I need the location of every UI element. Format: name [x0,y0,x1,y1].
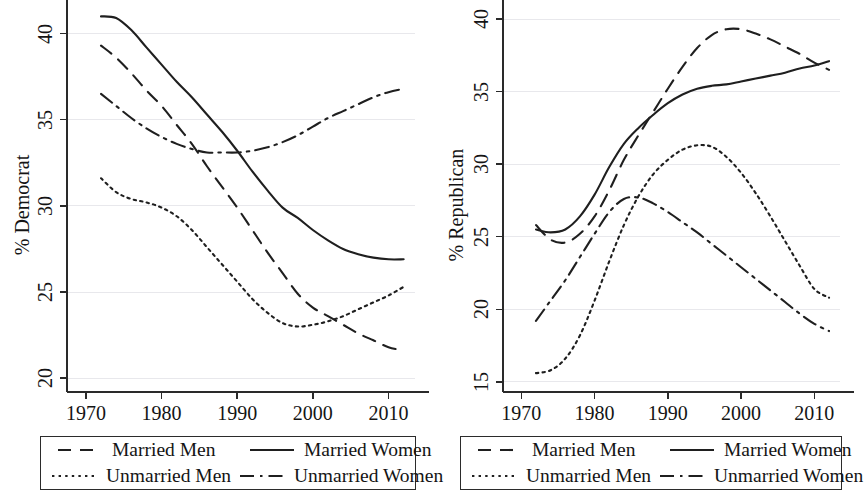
legend-entry-married-men: Married Men [41,439,243,461]
legend-entry-married-men: Married Men [461,439,663,461]
panel-republican: % Republican 152025303540 19701980199020… [432,0,864,492]
legend-sample-dotted-icon [471,470,517,482]
x-tick-label: 1990 [217,402,257,425]
legend-sample-dashdot-icon [659,470,705,482]
legend-label-married-men: Married Men [532,439,635,461]
legend-entry-unmarried-men: Unmarried Men [461,465,657,487]
x-tick-label: 1970 [66,402,106,425]
legend-row-unmarried: Unmarried Men Unmarried Women [461,463,841,489]
legend-sample-dashed-icon [477,444,523,456]
y-tick-label: 40 [470,9,493,29]
legend-label-married-men: Married Men [112,439,215,461]
y-axis-title-republican: % Republican [445,149,468,262]
x-tick-label: 2010 [369,402,409,425]
x-tick-label: 1980 [142,402,182,425]
y-tick-label: 25 [34,282,57,302]
legend-sample-dotted-icon [51,470,97,482]
legend-entry-unmarried-women: Unmarried Women [237,465,435,487]
y-tick-label: 35 [34,110,57,130]
legend-republican: Married Men Married Women Unmarried Men [460,436,842,490]
y-tick-label: 40 [34,24,57,44]
legend-entry-unmarried-men: Unmarried Men [41,465,237,487]
y-tick-label: 30 [34,196,57,216]
x-tick-label: 2010 [794,402,834,425]
legend-sample-dashdot-icon [239,470,285,482]
y-tick-label: 15 [470,372,493,392]
y-tick-label: 20 [34,368,57,388]
y-tick-label: 35 [470,82,493,102]
x-tick-label: 1980 [575,402,615,425]
legend-row-married: Married Men Married Women [461,437,841,463]
y-tick-label: 30 [470,154,493,174]
figure-two-panel-party-identification: % Democrat 2025303540 197019801990200020… [0,0,864,492]
legend-democrat: Married Men Married Women Unmarried Men [40,436,416,490]
legend-entry-unmarried-women: Unmarried Women [657,465,855,487]
y-tick-label: 20 [470,299,493,319]
plot-area-republican [432,0,864,420]
legend-row-unmarried: Unmarried Men Unmarried Women [41,463,415,489]
legend-label-unmarried-men: Unmarried Men [526,465,651,487]
legend-row-married: Married Men Married Women [41,437,415,463]
legend-sample-solid-icon [249,444,295,456]
legend-sample-dashed-icon [57,444,103,456]
legend-entry-married-women: Married Women [663,439,864,461]
x-tick-label: 1970 [501,402,541,425]
legend-entry-married-women: Married Women [243,439,445,461]
legend-label-unmarried-women: Unmarried Women [714,465,863,487]
y-axis-title-democrat: % Democrat [11,155,34,256]
legend-sample-solid-icon [669,444,715,456]
x-tick-label: 1990 [648,402,688,425]
x-tick-label: 2000 [293,402,333,425]
panel-democrat: % Democrat 2025303540 197019801990200020… [0,0,432,492]
x-tick-label: 2000 [721,402,761,425]
legend-label-married-women: Married Women [724,439,852,461]
y-tick-label: 25 [470,227,493,247]
legend-label-unmarried-women: Unmarried Women [294,465,443,487]
legend-label-married-women: Married Women [304,439,432,461]
plot-area-democrat [0,0,432,420]
legend-label-unmarried-men: Unmarried Men [106,465,231,487]
